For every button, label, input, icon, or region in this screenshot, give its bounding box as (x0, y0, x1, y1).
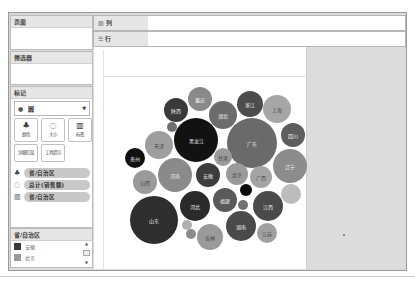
bubble-mark[interactable] (167, 122, 177, 132)
gridline (103, 76, 306, 77)
bubble-mark[interactable] (281, 184, 301, 204)
bubble-mark[interactable]: 浙江 (237, 91, 263, 117)
marks-title: 标记 (11, 87, 92, 99)
bubble-mark[interactable]: 北京 (226, 163, 248, 185)
bubble-mark[interactable]: 广西 (250, 166, 272, 188)
color-icon: ♣ (15, 120, 37, 131)
size-button[interactable]: ◌ 大小 (41, 118, 65, 142)
mark-type-dropdown[interactable]: ●ᐧ 圆 ▼ (14, 101, 90, 116)
bubble-mark[interactable]: 重庆 (188, 87, 212, 111)
columns-label: 列 (106, 19, 112, 26)
size-icon: ◌ (42, 120, 64, 131)
filters-title: 筛选器 (11, 52, 92, 64)
size-label: 大小 (49, 132, 57, 137)
mark-pill-color[interactable]: ♣ 省/自治区 (14, 168, 90, 178)
columns-icon: ▥ (98, 19, 104, 26)
label-label: 标签 (76, 132, 84, 137)
field-pill[interactable]: 省/自治区 (24, 192, 90, 202)
detail-button[interactable]: 详细信息 (14, 144, 38, 162)
color-button[interactable]: ♣ 颜色 (14, 118, 38, 142)
detail-label: 详细信息 (18, 150, 34, 155)
scroll-thumb[interactable] (83, 250, 90, 256)
rows-label: 行 (105, 35, 111, 42)
bubble-mark[interactable]: 河北 (180, 191, 210, 221)
color-label: 颜色 (22, 132, 30, 137)
legend-swatch (14, 243, 21, 250)
bubble-mark[interactable]: 吉林 (197, 224, 223, 250)
legend-scrollbar[interactable]: ▲ ▼ (83, 241, 90, 269)
bubble-mark[interactable]: 黑龙江 (174, 118, 218, 162)
legend-label: 安徽 (25, 243, 35, 251)
rows-shelf-label: ☰行 (94, 32, 148, 46)
scroll-down-icon[interactable]: ▼ (83, 260, 90, 265)
rows-shelf[interactable]: ☰行 (93, 31, 406, 47)
size-icon: ◌ (14, 180, 22, 190)
field-pill[interactable]: 省/自治区 (24, 168, 90, 178)
pages-card[interactable]: 页面 (10, 15, 93, 50)
label-icon: ▥ (69, 120, 91, 131)
tooltip-label: 工具提示 (45, 150, 61, 155)
bubble-mark[interactable]: 山西 (133, 170, 157, 194)
bubble-mark[interactable]: 江西 (253, 191, 283, 221)
bubble-mark[interactable] (186, 229, 196, 239)
bubble-mark[interactable] (238, 200, 248, 210)
bubble-mark[interactable]: 辽宁 (273, 149, 307, 183)
gridline (103, 50, 104, 269)
divider (0, 276, 415, 277)
bubble-mark[interactable]: 广东 (227, 118, 277, 168)
color-icon: ♣ (14, 168, 22, 178)
columns-shelf[interactable]: ▥列 (93, 15, 406, 31)
sidebar: 页面 筛选器 标记 ●ᐧ 圆 ▼ ♣ 颜色 ◌ 大小 ▥ 标签 详细信息 工具提… (9, 13, 92, 268)
bubble-mark[interactable]: 安徽 (196, 163, 220, 187)
mark-pill-label[interactable]: ▥ 省/自治区 (14, 192, 90, 202)
label-button[interactable]: ▥ 标签 (68, 118, 92, 142)
bubble-mark[interactable]: 上海 (263, 95, 291, 123)
resize-handle (343, 234, 345, 236)
mark-type-label: 圆 (28, 102, 34, 115)
bubble-mark[interactable]: 河南 (158, 158, 192, 192)
pages-title: 页面 (11, 16, 92, 28)
marks-card: 标记 ●ᐧ 圆 ▼ ♣ 颜色 ◌ 大小 ▥ 标签 详细信息 工具提示 ♣ 省/自… (10, 86, 93, 228)
chevron-down-icon: ▼ (82, 102, 86, 115)
bubble-mark[interactable]: 天津 (145, 131, 173, 159)
bubble-mark[interactable]: 甘肃 (214, 148, 232, 166)
filters-card[interactable]: 筛选器 (10, 51, 93, 85)
field-pill[interactable]: 总计(销售额) (24, 180, 90, 190)
chart-view[interactable]: 广东黑龙江山东河南湖南河北辽宁江西吉林湖北安徽天津上海浙江四川福建山西陕西重庆北… (94, 47, 307, 269)
mark-pill-size[interactable]: ◌ 总计(销售额) (14, 180, 90, 190)
rows-icon: ☰ (98, 35, 103, 42)
legend-label: 北京 (25, 254, 35, 262)
tooltip-button[interactable]: 工具提示 (41, 144, 65, 162)
bubble-mark[interactable]: 山东 (130, 196, 178, 244)
legend-title: 省/自治区 (11, 229, 92, 241)
bubble-mark[interactable]: 贵州 (125, 148, 145, 168)
columns-shelf-label: ▥列 (94, 16, 148, 30)
bubble-mark[interactable]: 湖南 (226, 211, 256, 241)
bubble-mark[interactable]: 陕西 (164, 98, 188, 122)
bubble-mark[interactable]: 江苏 (257, 223, 277, 243)
legend-item[interactable]: 安徽 (14, 243, 74, 251)
bubble-mark[interactable]: 湖北 (209, 101, 237, 129)
legend-item[interactable]: 北京 (14, 254, 74, 262)
bubble-mark[interactable]: 福建 (213, 188, 237, 212)
bubble-mark[interactable]: 四川 (281, 123, 305, 147)
label-icon: ▥ (14, 192, 22, 202)
scroll-up-icon[interactable]: ▲ (83, 241, 90, 246)
circle-icon: ●ᐧ (18, 102, 25, 115)
legend-swatch (14, 254, 21, 261)
legend-card: 省/自治区 安徽 北京 ▲ ▼ (10, 228, 93, 268)
bubble-mark[interactable] (240, 184, 252, 196)
